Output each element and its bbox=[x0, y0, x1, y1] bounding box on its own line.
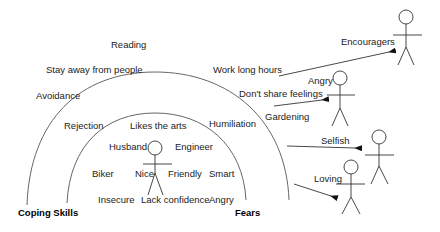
label-rejection: Rejection bbox=[64, 121, 104, 131]
ring-title-fears: Fears bbox=[235, 208, 260, 218]
encouragers-arrow bbox=[279, 52, 389, 76]
label-avoidance: Avoidance bbox=[36, 91, 80, 101]
actor-label-encouragers: Encouragers bbox=[341, 37, 395, 47]
label-nice: Nice bbox=[135, 169, 154, 179]
label-angry-inner: Angry bbox=[209, 195, 234, 205]
label-stay-away-from-people: Stay away from people bbox=[46, 65, 143, 75]
label-biker: Biker bbox=[92, 169, 114, 179]
selfish-person-icon bbox=[365, 130, 394, 184]
label-insecure: Insecure bbox=[98, 195, 134, 205]
label-humiliation: Humiliation bbox=[209, 119, 256, 129]
label-lack-confidence: Lack confidence bbox=[141, 195, 210, 205]
label-reading: Reading bbox=[111, 40, 146, 50]
label-work-long-hours: Work long hours bbox=[213, 65, 282, 75]
label-friendly: Friendly bbox=[168, 169, 202, 179]
encouragers-person-icon bbox=[393, 10, 422, 65]
ring-title-coping-skills: Coping Skills bbox=[18, 208, 78, 218]
loving-arrow bbox=[294, 184, 331, 196]
loving-person-icon bbox=[336, 160, 365, 214]
actor-label-loving: Loving bbox=[314, 174, 342, 184]
label-gardening: Gardening bbox=[265, 112, 309, 122]
label-husband: Husband bbox=[109, 142, 147, 152]
label-engineer: Engineer bbox=[175, 142, 213, 152]
angry-arrow bbox=[274, 100, 322, 106]
label-smart: Smart bbox=[209, 169, 234, 179]
label-likes-the-arts: Likes the arts bbox=[130, 121, 187, 131]
selfish-arrow bbox=[287, 146, 355, 148]
actor-label-angry: Angry bbox=[308, 76, 333, 86]
actor-label-selfish: Selfish bbox=[321, 136, 350, 146]
label-dont-share-feelings: Don't share feelings bbox=[239, 89, 323, 99]
